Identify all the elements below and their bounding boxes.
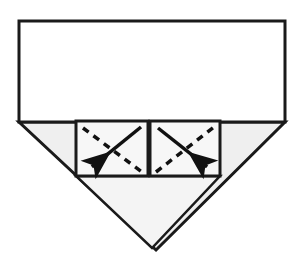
top-rectangle [19,21,285,122]
origami-figure: Origami diagram: fold the two marked squ… [0,0,301,268]
origami-diagram-svg [0,0,301,268]
